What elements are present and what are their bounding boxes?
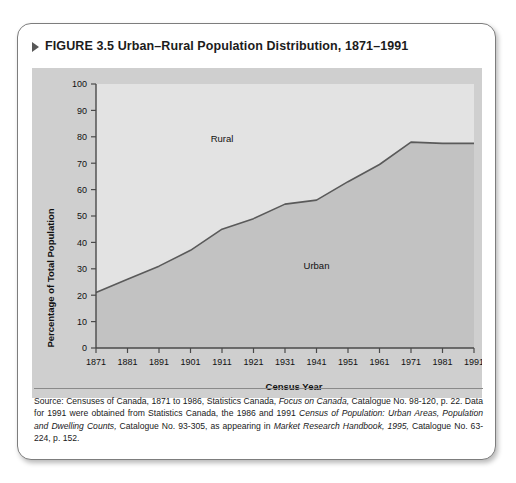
y-axis-tick-label: 40	[77, 238, 87, 248]
source-italic-3: Market Research Handbook, 1995,	[274, 421, 409, 431]
y-axis-tick-label: 0	[82, 343, 87, 353]
x-axis-tick-label: 1911	[212, 357, 231, 367]
plot-area	[96, 84, 474, 348]
series-label-rural: Rural	[211, 133, 234, 144]
page-title: FIGURE 3.5 Urban–Rural Population Distri…	[45, 39, 408, 53]
y-axis-tick-label: 20	[77, 291, 87, 301]
x-axis-tick-label: 1971	[401, 357, 421, 367]
y-axis-tick-label: 80	[77, 132, 87, 142]
figure-card: FIGURE 3.5 Urban–Rural Population Distri…	[17, 23, 496, 460]
source-segment-1: Censuses of Canada, 1871 to 1986, Statis…	[66, 396, 276, 406]
source-italic-1: Focus on Canada,	[279, 396, 349, 406]
urban-rural-area-chart: 0102030405060708090100187118811891190119…	[32, 68, 482, 398]
figure-title-row: FIGURE 3.5 Urban–Rural Population Distri…	[32, 39, 408, 53]
y-axis-tick-label: 60	[77, 185, 87, 195]
x-axis-tick-label: 1871	[86, 357, 106, 367]
x-axis-tick-label: 1961	[369, 357, 389, 367]
chart-panel: 0102030405060708090100187118811891190119…	[32, 68, 482, 398]
y-axis-tick-label: 50	[77, 211, 87, 221]
x-axis-tick-label: 1901	[180, 357, 200, 367]
x-axis-tick-label: 1991	[464, 357, 482, 367]
y-axis-tick-label: 90	[77, 106, 87, 116]
x-axis-tick-label: 1881	[117, 357, 137, 367]
source-note: Source: Censuses of Canada, 1871 to 1986…	[34, 388, 483, 444]
y-axis-tick-label: 30	[77, 264, 87, 274]
source-label: Source:	[34, 396, 64, 406]
triangle-right-icon	[32, 42, 39, 52]
x-axis-tick-label: 1921	[243, 357, 263, 367]
figure-page: FIGURE 3.5 Urban–Rural Population Distri…	[0, 0, 516, 483]
y-axis-label: Percentage of Total Population	[45, 208, 56, 347]
x-axis-tick-label: 1891	[149, 357, 169, 367]
source-segment-3: Catalogue No. 93-305, as appearing in	[120, 421, 271, 431]
y-axis-tick-label: 100	[72, 79, 87, 89]
x-axis-tick-label: 1941	[306, 357, 326, 367]
y-axis-tick-label: 70	[77, 159, 87, 169]
x-axis-tick-label: 1951	[338, 357, 358, 367]
series-label-urban: Urban	[304, 260, 330, 271]
x-axis-tick-label: 1931	[275, 357, 295, 367]
source-divider	[34, 388, 483, 389]
x-axis-tick-label: 1981	[432, 357, 452, 367]
y-axis-tick-label: 10	[77, 317, 87, 327]
